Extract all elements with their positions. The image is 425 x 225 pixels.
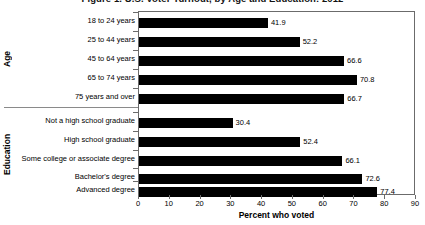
category-label: Some college or associate degree bbox=[0, 154, 135, 164]
bar-value-label: 66.6 bbox=[347, 55, 362, 66]
category-label: 45 to 64 years bbox=[0, 54, 135, 64]
x-axis-title: Percent who voted bbox=[138, 210, 415, 220]
x-axis-tick-label: 80 bbox=[372, 199, 396, 209]
category-label: 75 years and over bbox=[0, 92, 135, 102]
x-axis-tick-label: 70 bbox=[341, 199, 365, 209]
group-divider bbox=[4, 107, 138, 108]
bar-value-label: 41.9 bbox=[271, 17, 286, 28]
bar-value-label: 30.4 bbox=[236, 117, 251, 128]
bar-value-label: 70.8 bbox=[360, 74, 375, 85]
category-label: Advanced degree bbox=[0, 185, 135, 195]
bar[interactable] bbox=[139, 174, 362, 184]
bar-value-label: 52.4 bbox=[303, 136, 318, 147]
bar-value-label: 66.1 bbox=[345, 155, 360, 166]
bar-value-label: 66.7 bbox=[347, 93, 362, 104]
bar[interactable] bbox=[139, 56, 344, 66]
chart-title: Figure 1. U.S. Voter Turnout, by Age and… bbox=[0, 0, 425, 5]
bar[interactable] bbox=[139, 187, 377, 197]
bar[interactable] bbox=[139, 37, 300, 47]
x-axis-tick-label: 40 bbox=[249, 199, 273, 209]
bar-value-label: 77.4 bbox=[380, 186, 395, 197]
category-label: 65 to 74 years bbox=[0, 73, 135, 83]
category-label: High school graduate bbox=[0, 135, 135, 145]
category-label: 18 to 24 years bbox=[0, 16, 135, 26]
bar-value-label: 52.2 bbox=[303, 36, 318, 47]
x-axis-tick-label: 60 bbox=[311, 199, 335, 209]
x-axis-tick-label: 20 bbox=[188, 199, 212, 209]
category-label: 25 to 44 years bbox=[0, 35, 135, 45]
x-axis-tick-label: 10 bbox=[157, 199, 181, 209]
bar[interactable] bbox=[139, 118, 233, 128]
bar-value-label: 72.6 bbox=[365, 173, 380, 184]
bar[interactable] bbox=[139, 137, 300, 147]
category-label: Not a high school graduate bbox=[0, 116, 135, 126]
bar[interactable] bbox=[139, 156, 342, 166]
category-label: Bachelor's degree bbox=[0, 172, 135, 182]
plot-area: 41.952.266.670.866.730.452.466.172.677.4 bbox=[138, 11, 415, 195]
x-axis-tick-label: 50 bbox=[280, 199, 304, 209]
bar[interactable] bbox=[139, 18, 268, 28]
bar[interactable] bbox=[139, 94, 344, 104]
bar[interactable] bbox=[139, 75, 357, 85]
x-axis-tick-label: 0 bbox=[126, 199, 150, 209]
x-axis-tick-label: 30 bbox=[218, 199, 242, 209]
x-axis-tick-label: 90 bbox=[403, 199, 425, 209]
